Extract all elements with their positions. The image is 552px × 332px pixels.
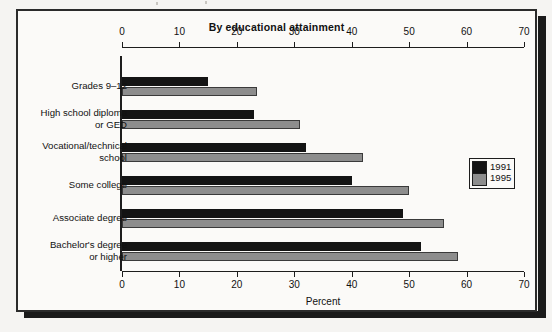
x-tick-label-top-40: 40 <box>346 26 357 37</box>
x-tick-label-bottom-50: 50 <box>404 279 415 290</box>
x-tick-bottom-20 <box>237 272 238 277</box>
x-tick-label-top-50: 50 <box>404 26 415 37</box>
bar-1995-3 <box>122 186 409 195</box>
x-tick-top-10 <box>179 42 180 47</box>
panel-drop-shadow-bottom <box>24 311 546 318</box>
bottom-axis-line <box>122 271 524 272</box>
legend-swatch-1991 <box>473 162 486 173</box>
bar-1991-0 <box>122 77 208 86</box>
chart-title: By educational attainment <box>18 21 535 33</box>
panel-drop-shadow-right <box>538 16 546 318</box>
x-tick-label-bottom-30: 30 <box>289 279 300 290</box>
legend-label-1995: 1995 <box>490 172 511 183</box>
x-tick-label-top-0: 0 <box>119 26 125 37</box>
legend-swatch-1995 <box>473 173 486 185</box>
legend: 1991 1995 <box>469 158 515 189</box>
x-tick-top-40 <box>352 42 353 47</box>
x-tick-label-bottom-10: 10 <box>174 279 185 290</box>
x-tick-label-bottom-70: 70 <box>518 279 529 290</box>
x-tick-label-bottom-20: 20 <box>231 279 242 290</box>
x-tick-bottom-70 <box>524 272 525 277</box>
legend-swatches <box>472 161 487 186</box>
chart-page: By educational attainment 01020304050607… <box>0 0 552 332</box>
legend-label-1991: 1991 <box>490 161 511 172</box>
x-tick-label-top-30: 30 <box>289 26 300 37</box>
x-tick-bottom-50 <box>409 272 410 277</box>
x-tick-bottom-40 <box>352 272 353 277</box>
category-label-4: Associate degree <box>53 212 127 224</box>
x-tick-label-bottom-0: 0 <box>119 279 125 290</box>
scan-speck <box>205 1 207 4</box>
bar-1991-3 <box>122 176 352 185</box>
bar-1995-0 <box>122 87 257 96</box>
x-tick-top-60 <box>467 42 468 47</box>
bar-1991-4 <box>122 209 403 218</box>
x-tick-bottom-60 <box>467 272 468 277</box>
x-tick-top-20 <box>237 42 238 47</box>
x-tick-label-bottom-40: 40 <box>346 279 357 290</box>
chart-frame: By educational attainment 01020304050607… <box>16 9 537 312</box>
x-tick-top-50 <box>409 42 410 47</box>
legend-labels: 1991 1995 <box>490 161 511 186</box>
x-tick-top-70 <box>524 42 525 47</box>
x-tick-bottom-30 <box>294 272 295 277</box>
category-label-1: High school diploma or GED <box>41 107 127 130</box>
x-tick-label-top-60: 60 <box>461 26 472 37</box>
bar-1991-5 <box>122 242 421 251</box>
x-tick-label-top-10: 10 <box>174 26 185 37</box>
x-tick-top-0 <box>122 42 123 47</box>
category-label-0: Grades 9–12 <box>72 80 127 92</box>
scan-speck <box>156 2 158 5</box>
bar-1995-1 <box>122 120 300 129</box>
bar-1991-1 <box>122 110 254 119</box>
bar-1991-2 <box>122 143 306 152</box>
category-label-2: Vocational/technical school <box>42 140 127 163</box>
x-tick-bottom-0 <box>122 272 123 277</box>
x-tick-top-30 <box>294 42 295 47</box>
x-tick-label-top-20: 20 <box>231 26 242 37</box>
plot-area: 010203040506070 010203040506070 Percent <box>120 56 524 271</box>
x-axis-label: Percent <box>122 296 524 307</box>
category-label-3: Some college <box>69 179 127 191</box>
bar-1995-5 <box>122 252 458 261</box>
x-tick-bottom-10 <box>179 272 180 277</box>
bar-1995-2 <box>122 153 363 162</box>
x-tick-label-top-70: 70 <box>518 26 529 37</box>
x-tick-label-bottom-60: 60 <box>461 279 472 290</box>
top-axis-line <box>122 47 524 48</box>
bar-1995-4 <box>122 219 444 228</box>
category-label-5: Bachelor's degree or higher <box>50 239 127 262</box>
